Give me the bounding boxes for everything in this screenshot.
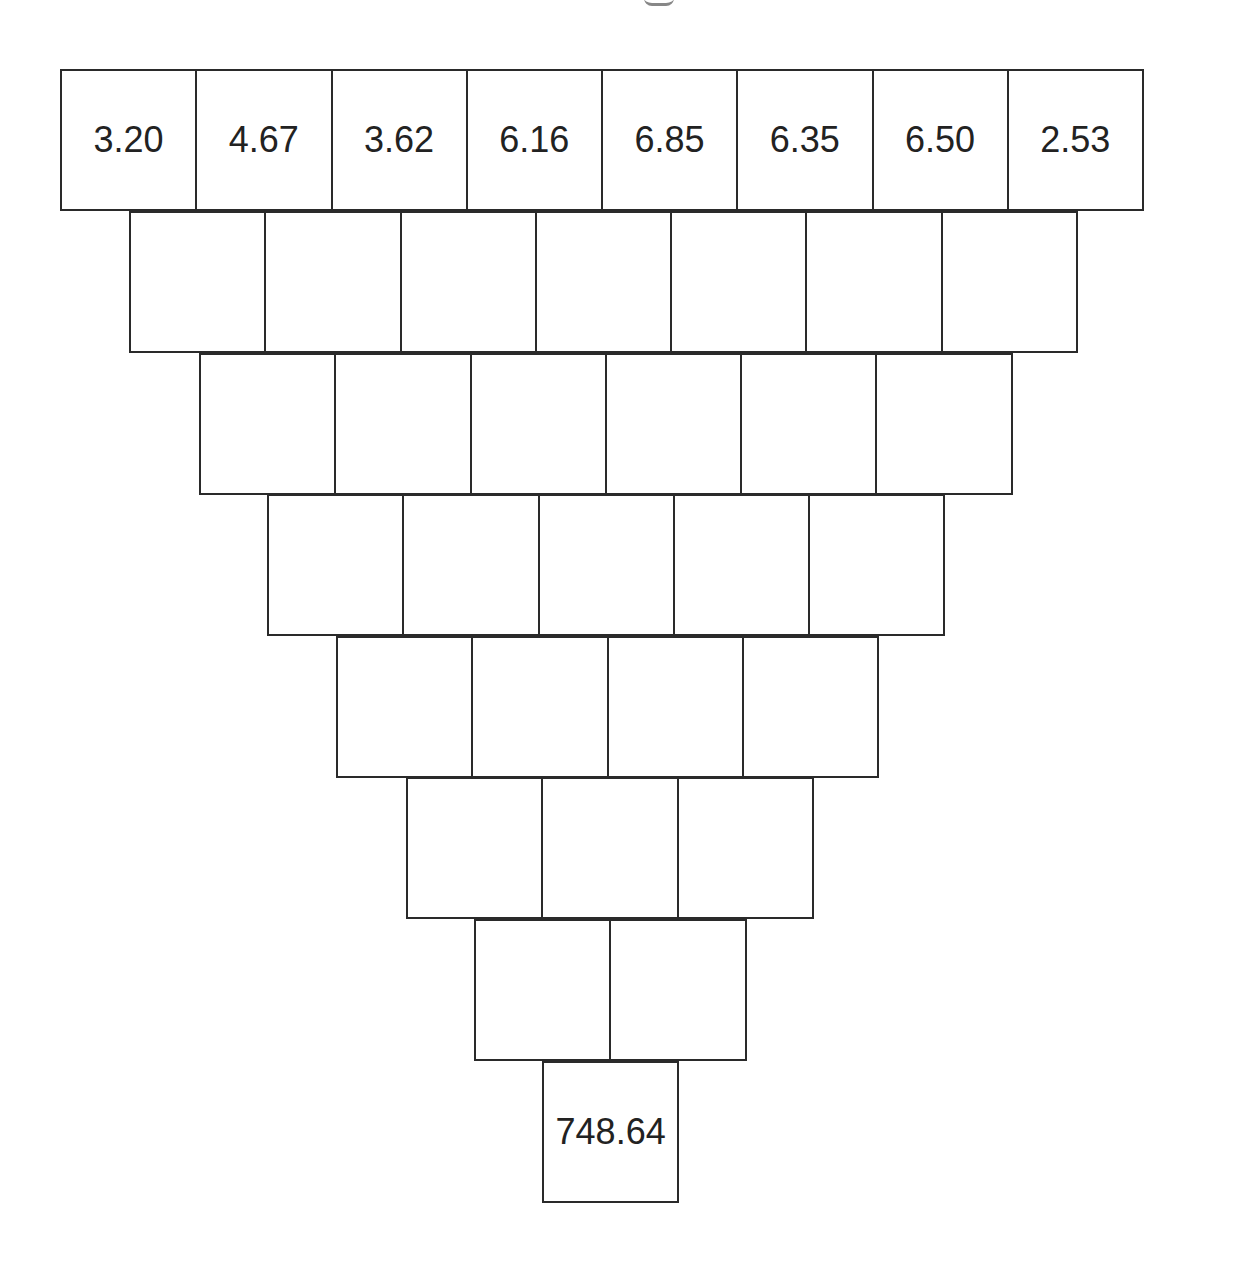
pyramid-row-3 [199,353,1011,493]
pyramid-cell [267,494,404,636]
pyramid-cell [538,494,675,636]
pyramid-cell [607,636,744,778]
pyramid-row-1: 3.204.673.626.166.856.356.502.53 [60,69,1142,209]
pyramid-cell [336,636,473,778]
pyramid-cell [808,494,945,636]
pyramid-cell [740,353,877,495]
pyramid-cell [334,353,471,495]
pyramid-cell [875,353,1012,495]
pyramid-row-5 [336,636,877,776]
pyramid-cell: 3.62 [331,69,468,211]
pyramid-cell: 4.67 [195,69,332,211]
pyramid-cell [670,211,807,353]
pyramid-cell: 748.64 [542,1061,679,1203]
pyramid-cell [471,636,608,778]
pyramid-cell: 3.20 [60,69,197,211]
pyramid-cell [605,353,742,495]
pyramid-cell [406,777,543,919]
pyramid-cell [805,211,942,353]
pyramid-cell [541,777,678,919]
number-pyramid: 3.204.673.626.166.856.356.502.53748.64 [0,0,1233,1263]
pyramid-cell: 6.50 [872,69,1009,211]
pyramid-cell [474,919,611,1061]
pyramid-cell [941,211,1078,353]
pyramid-cell [742,636,879,778]
pyramid-row-4 [267,494,943,634]
pyramid-cell [129,211,266,353]
pyramid-cell [470,353,607,495]
pyramid-row-8: 748.64 [542,1061,677,1201]
pyramid-cell: 6.35 [736,69,873,211]
pyramid-cell [609,919,746,1061]
pyramid-row-6 [406,777,812,917]
pyramid-cell [264,211,401,353]
pyramid-cell [400,211,537,353]
pyramid-cell: 2.53 [1007,69,1144,211]
pyramid-row-2 [129,211,1076,351]
pyramid-cell [199,353,336,495]
pyramid-cell [402,494,539,636]
pyramid-row-7 [474,919,745,1059]
pyramid-cell [677,777,814,919]
pyramid-cell [673,494,810,636]
pyramid-cell: 6.85 [601,69,738,211]
pyramid-cell: 6.16 [466,69,603,211]
pyramid-cell [535,211,672,353]
